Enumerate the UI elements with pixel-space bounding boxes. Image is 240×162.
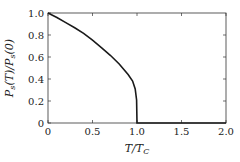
x-tick-0: 0 [45, 126, 51, 137]
y-tick-0.4: 0.4 [28, 74, 44, 85]
chart: 0 0.5 1.0 1.5 2.0 0 0.2 0.4 0.6 0.8 1.0 … [0, 0, 240, 162]
x-tick-0.5: 0.5 [85, 126, 101, 137]
y-tick-0.2: 0.2 [28, 96, 44, 107]
y-tick-0.6: 0.6 [28, 52, 44, 63]
x-tick-1.5: 1.5 [174, 126, 190, 137]
x-axis-label: T/TC [125, 142, 150, 156]
y-tick-0: 0 [38, 118, 44, 129]
order-parameter-curve [48, 13, 226, 123]
x-tick-2.0: 2.0 [218, 126, 234, 137]
x-tick-1.0: 1.0 [129, 126, 145, 137]
y-axis-label: Ps(T)/Ps(0) [3, 39, 17, 98]
y-tick-1.0: 1.0 [28, 8, 44, 19]
y-tick-0.8: 0.8 [28, 30, 44, 41]
